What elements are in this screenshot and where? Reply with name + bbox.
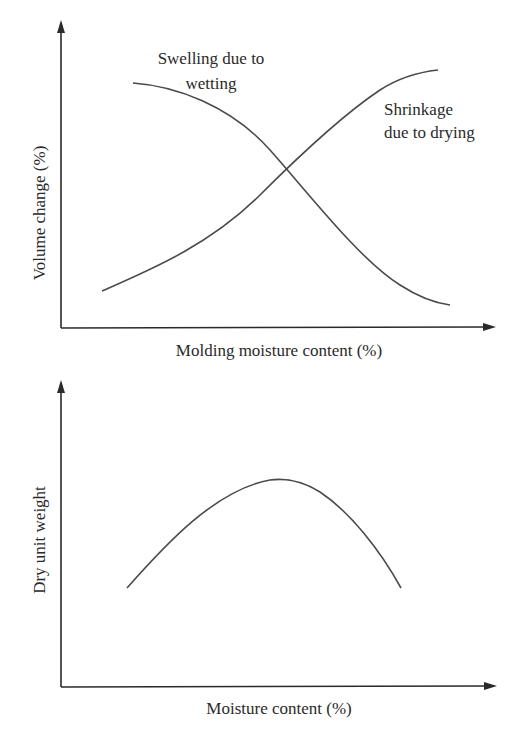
dry-unit-weight-plot: Dry unit weight Moisture content (%)	[30, 380, 497, 718]
shrinkage-label-line2: due to drying	[384, 123, 475, 142]
compaction-curve	[127, 479, 401, 588]
figure: Swelling due to wetting Shrinkage due to…	[0, 0, 520, 741]
x-axis	[61, 686, 486, 687]
figure-svg: Swelling due to wetting Shrinkage due to…	[0, 0, 520, 741]
shrinkage-label-line1: Shrinkage	[384, 100, 453, 119]
x-axis-arrow-icon	[483, 323, 496, 331]
y-axis-label: Volume change (%)	[30, 146, 49, 281]
swelling-label-line2: wetting	[186, 74, 237, 93]
x-axis-arrow-icon	[484, 682, 497, 690]
y-axis-arrow-icon	[57, 20, 65, 33]
y-axis-label: Dry unit weight	[30, 486, 49, 594]
x-axis	[61, 327, 485, 328]
y-axis-arrow-icon	[57, 380, 65, 393]
x-axis-label: Molding moisture content (%)	[176, 341, 382, 360]
x-axis-label: Moisture content (%)	[206, 699, 351, 718]
volume-change-plot: Swelling due to wetting Shrinkage due to…	[30, 20, 496, 360]
swelling-label-line1: Swelling due to	[158, 49, 265, 68]
